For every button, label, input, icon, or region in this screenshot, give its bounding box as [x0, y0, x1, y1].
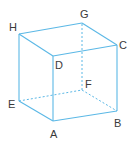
vertex-label-c: C [119, 39, 127, 51]
vertex-label-g: G [80, 8, 89, 20]
vertex-label-f: F [85, 78, 92, 90]
edge-ef [19, 90, 82, 101]
vertex-labels: A B C D E F G H [8, 8, 127, 140]
edge-hd [19, 34, 53, 56]
edge-gc [82, 23, 117, 45]
cube-diagram: A B C D E F G H [0, 0, 132, 149]
edge-ea [19, 101, 53, 121]
edge-fb [82, 90, 117, 111]
vertex-label-e: E [8, 98, 15, 110]
vertex-label-b: B [114, 117, 121, 129]
visible-edges [19, 23, 117, 121]
edge-cd [53, 45, 117, 56]
edge-ab [53, 111, 117, 121]
vertex-label-a: A [50, 128, 58, 140]
vertex-label-h: H [9, 21, 17, 33]
vertex-label-d: D [55, 59, 63, 71]
edge-hg [19, 23, 82, 34]
